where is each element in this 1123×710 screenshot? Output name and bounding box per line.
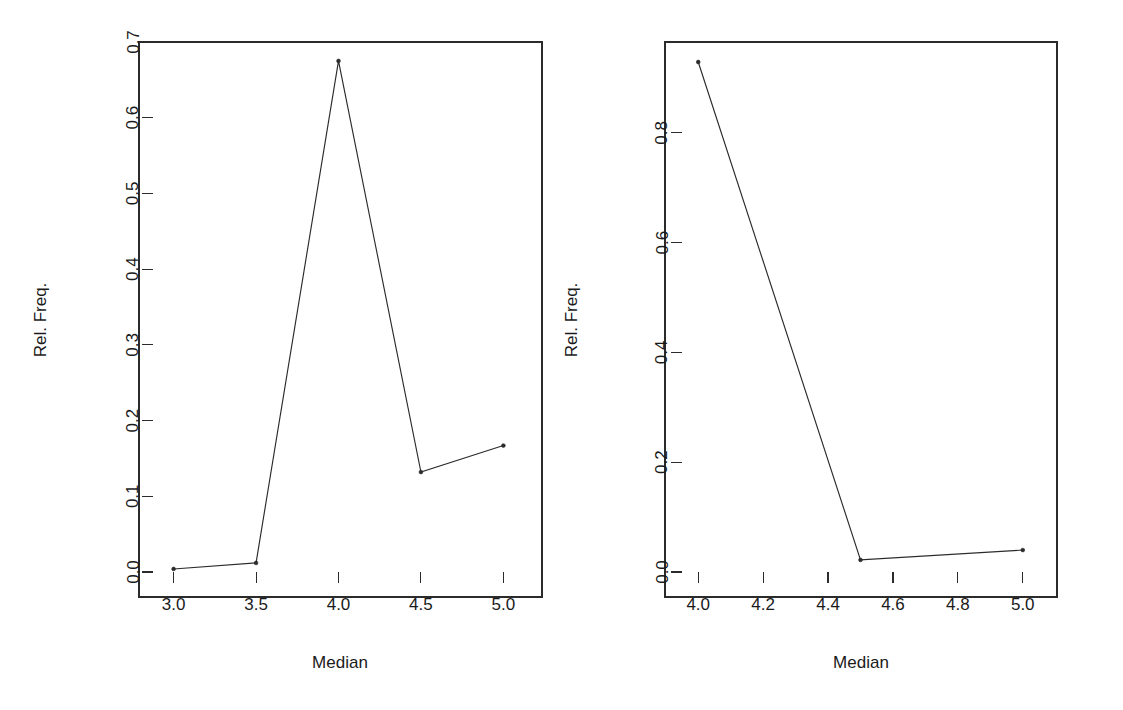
y-tick-label: 0.6 xyxy=(124,106,143,130)
y-tick-label: 0.4 xyxy=(124,257,143,281)
y-tick-label: 0.3 xyxy=(124,333,143,357)
y-tick-label: 0.4 xyxy=(653,341,672,365)
data-point-marker xyxy=(172,567,176,571)
right-plot-svg: 4.04.24.44.64.85.0 0.00.20.40.60.8 Media… xyxy=(561,0,1123,710)
left-data-line xyxy=(174,61,504,569)
y-tick-label: 0.2 xyxy=(124,409,143,433)
x-tick-label: 4.6 xyxy=(881,595,905,614)
right-y-axis-title: Rel. Freq. xyxy=(562,283,581,358)
y-tick-label: 0.0 xyxy=(124,560,143,584)
x-tick-label: 5.0 xyxy=(492,595,516,614)
left-y-axis-ticks xyxy=(142,42,153,572)
left-plot-box-group xyxy=(139,42,542,597)
right-x-axis-tick-labels: 4.04.24.44.64.85.0 xyxy=(686,595,1034,614)
left-data-points xyxy=(172,59,506,571)
chart-panel-right: 4.04.24.44.64.85.0 0.00.20.40.60.8 Media… xyxy=(561,0,1123,710)
data-point-marker xyxy=(696,60,700,64)
x-tick-label: 4.0 xyxy=(686,595,710,614)
x-tick-label: 4.8 xyxy=(946,595,970,614)
y-tick-label: 0.7 xyxy=(124,30,143,54)
right-data-points xyxy=(696,60,1024,562)
left-x-axis-ticks xyxy=(174,572,504,583)
left-x-axis-title: Median xyxy=(312,653,368,672)
right-y-axis-tick-labels: 0.00.20.40.60.8 xyxy=(653,121,672,584)
x-tick-label: 4.4 xyxy=(816,595,840,614)
data-point-marker xyxy=(419,470,423,474)
y-tick-label: 0.5 xyxy=(124,182,143,206)
x-tick-label: 4.5 xyxy=(409,595,433,614)
y-tick-label: 0.2 xyxy=(653,450,672,474)
y-tick-label: 0.8 xyxy=(653,121,672,145)
chart-panel-left: 3.03.54.04.55.0 0.00.10.20.30.40.50.60.7… xyxy=(0,0,561,710)
data-point-marker xyxy=(859,558,863,562)
y-tick-label: 0.1 xyxy=(124,484,143,508)
data-point-marker xyxy=(1021,548,1025,552)
right-plot-box xyxy=(665,42,1057,597)
left-plot-svg: 3.03.54.04.55.0 0.00.10.20.30.40.50.60.7… xyxy=(0,0,561,710)
right-y-axis-ticks xyxy=(671,133,682,572)
x-tick-label: 4.2 xyxy=(751,595,775,614)
right-plot-box-group xyxy=(665,42,1057,597)
right-x-axis-title: Median xyxy=(833,653,889,672)
right-data-line xyxy=(698,62,1023,560)
y-tick-label: 0.0 xyxy=(653,560,672,584)
left-y-axis-tick-labels: 0.00.10.20.30.40.50.60.7 xyxy=(124,30,143,584)
left-x-axis-tick-labels: 3.03.54.04.55.0 xyxy=(162,595,515,614)
data-point-marker xyxy=(254,561,258,565)
x-tick-label: 5.0 xyxy=(1011,595,1035,614)
right-x-axis-ticks xyxy=(698,572,1023,583)
x-tick-label: 3.0 xyxy=(162,595,186,614)
left-plot-box xyxy=(139,42,542,597)
x-tick-label: 4.0 xyxy=(327,595,351,614)
data-point-marker xyxy=(501,444,505,448)
data-point-marker xyxy=(337,59,341,63)
figure-root: 3.03.54.04.55.0 0.00.10.20.30.40.50.60.7… xyxy=(0,0,1123,710)
y-tick-label: 0.6 xyxy=(653,231,672,255)
x-tick-label: 3.5 xyxy=(244,595,268,614)
left-y-axis-title: Rel. Freq. xyxy=(31,283,50,358)
